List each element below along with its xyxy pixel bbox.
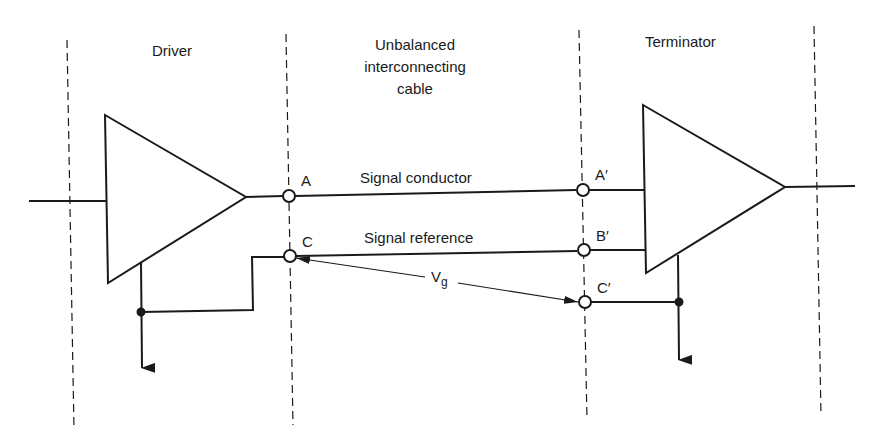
- boundary-left: [67, 40, 74, 430]
- terminator-output-wire: [785, 186, 855, 187]
- boundary-driver-cable: [286, 34, 293, 425]
- vg-subscript: g: [441, 275, 448, 289]
- cable-label-line3: cable: [360, 80, 470, 98]
- node-a-label: A: [301, 172, 311, 190]
- node-b-prime: [578, 244, 590, 256]
- signal-conductor-line: [295, 190, 576, 196]
- driver-reference-wire: [141, 257, 284, 312]
- terminator-amplifier: [589, 105, 855, 360]
- terminator-label: Terminator: [645, 33, 716, 51]
- boundary-cable-terminator: [579, 30, 587, 420]
- node-c-prime-label: C′: [597, 279, 611, 297]
- driver-label: Driver: [152, 42, 192, 60]
- driver-triangle: [105, 115, 246, 283]
- driver-output-wire: [246, 196, 284, 197]
- node-b-prime-label: B′: [596, 227, 609, 245]
- vg-arrow-to-c: [296, 258, 425, 277]
- node-a-prime-label: A′: [595, 166, 608, 184]
- vg-arrow-to-c-prime: [458, 283, 578, 302]
- boundary-right: [814, 26, 821, 416]
- node-c-label: C: [302, 233, 313, 251]
- ground-voltage-label: Vg: [431, 268, 448, 291]
- node-a: [283, 190, 295, 202]
- node-a-prime: [577, 184, 589, 196]
- cable-label-line2: interconnecting: [355, 58, 475, 76]
- node-c: [284, 250, 296, 262]
- signal-conductor-label: Signal conductor: [360, 169, 472, 187]
- signal-reference-label: Signal reference: [364, 229, 473, 247]
- terminator-junction-dot: [676, 299, 683, 306]
- vg-main: V: [431, 268, 441, 285]
- driver-junction-dot: [138, 309, 145, 316]
- terminator-triangle: [643, 105, 785, 273]
- driver-amplifier: [29, 115, 284, 368]
- signal-reference-line: [296, 251, 577, 256]
- cable-label-line1: Unbalanced: [360, 36, 470, 54]
- node-c-prime: [579, 296, 591, 308]
- terminator-ground-wire: [678, 255, 679, 360]
